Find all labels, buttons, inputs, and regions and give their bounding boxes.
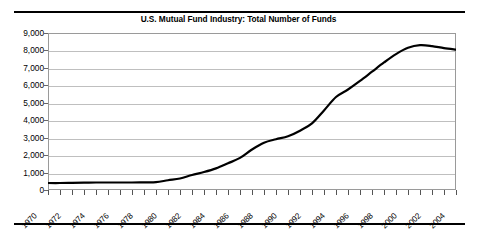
x-axis-labels: 1970197219741976197819801982198419861988… xyxy=(0,193,477,223)
chart-title: U.S. Mutual Fund Industry: Total Number … xyxy=(0,14,477,24)
bottom-rule xyxy=(14,223,465,225)
y-tick-label: 4,000 xyxy=(0,116,44,124)
data-series-line xyxy=(48,33,456,190)
y-tick-label: 1,000 xyxy=(0,168,44,176)
x-tick-label: 1994 xyxy=(308,211,327,230)
y-tick-label: 3,000 xyxy=(0,133,44,141)
x-tick-label: 1984 xyxy=(188,211,207,230)
x-tick-label: 1978 xyxy=(116,211,135,230)
y-tick-label: 9,000 xyxy=(0,29,44,37)
x-tick-label: 1972 xyxy=(44,211,63,230)
x-tick-label: 1970 xyxy=(20,211,39,230)
chart-figure: U.S. Mutual Fund Industry: Total Number … xyxy=(0,0,477,233)
x-tick-label: 1974 xyxy=(68,211,87,230)
x-tick-label: 2000 xyxy=(380,211,399,230)
y-tick-label: 6,000 xyxy=(0,81,44,89)
x-tick-label: 1988 xyxy=(236,211,255,230)
x-tick-label: 1996 xyxy=(332,211,351,230)
x-tick-label: 2002 xyxy=(404,211,423,230)
x-tick-label: 1980 xyxy=(140,211,159,230)
funds-line-path xyxy=(48,45,456,183)
x-tick-label: 1992 xyxy=(284,211,303,230)
y-tick-label: 7,000 xyxy=(0,64,44,72)
x-tick-label: 1976 xyxy=(92,211,111,230)
x-tick-label: 1982 xyxy=(164,211,183,230)
x-tick-label: 2004 xyxy=(428,211,447,230)
top-rule xyxy=(14,11,465,13)
x-tick-label: 1998 xyxy=(356,211,375,230)
y-tick-label: 2,000 xyxy=(0,151,44,159)
y-tick-label: 8,000 xyxy=(0,46,44,54)
x-tick-label: 1986 xyxy=(212,211,231,230)
y-tick-label: 5,000 xyxy=(0,98,44,106)
x-tick-label: 1990 xyxy=(260,211,279,230)
y-axis: 01,0002,0003,0004,0005,0006,0007,0008,00… xyxy=(0,33,44,190)
